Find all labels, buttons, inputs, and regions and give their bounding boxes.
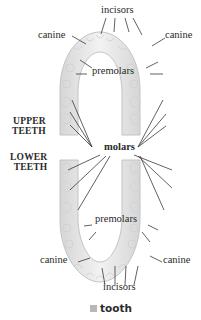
label-premolars-upper: premolars <box>92 66 134 77</box>
label-canine-lower-left: canine <box>40 255 67 266</box>
label-lower-teeth: LOWER TEETH <box>10 153 47 172</box>
legend: tooth <box>90 302 132 314</box>
label-canine-upper-right: canine <box>165 30 192 41</box>
legend-swatch <box>90 305 97 312</box>
legend-label-tooth: tooth <box>100 302 132 314</box>
label-upper-teeth: UPPER TEETH <box>12 117 46 136</box>
label-molars: molars <box>104 142 135 153</box>
label-incisors-upper: incisors <box>101 5 134 16</box>
label-canine-upper-left: canine <box>38 30 65 41</box>
label-premolars-lower: premolars <box>95 214 137 225</box>
label-incisors-lower: incisors <box>103 282 136 293</box>
label-canine-lower-right: canine <box>163 255 190 266</box>
upper-arch <box>60 32 140 135</box>
